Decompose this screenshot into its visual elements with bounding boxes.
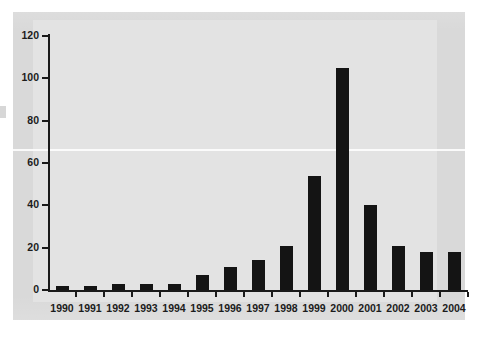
bar bbox=[308, 176, 321, 290]
bar bbox=[392, 246, 405, 290]
bar bbox=[56, 286, 69, 290]
x-axis-tick-mark bbox=[271, 292, 273, 297]
y-axis-tick-mark bbox=[42, 120, 48, 122]
bar bbox=[336, 68, 349, 290]
bar-chart-plot-area: 020406080100120 199019911992199319941995… bbox=[48, 34, 468, 292]
x-axis-tick-label: 1995 bbox=[190, 302, 213, 314]
bar bbox=[168, 284, 181, 290]
y-axis-tick-label: 60 bbox=[27, 156, 39, 168]
x-axis-tick-mark bbox=[467, 292, 469, 297]
x-axis-tick-mark bbox=[327, 292, 329, 297]
bar bbox=[280, 246, 293, 290]
x-axis-tick-label: 1991 bbox=[78, 302, 101, 314]
y-axis-tick-label: 80 bbox=[27, 114, 39, 126]
edge-artifact-mark bbox=[0, 106, 6, 118]
y-axis-tick-label: 40 bbox=[27, 198, 39, 210]
x-axis-tick-mark bbox=[299, 292, 301, 297]
bar bbox=[364, 205, 377, 290]
x-axis-tick-mark bbox=[383, 292, 385, 297]
bar bbox=[252, 260, 265, 290]
x-axis-tick-label: 1994 bbox=[162, 302, 185, 314]
bar bbox=[84, 286, 97, 290]
y-axis-tick-label: 100 bbox=[21, 71, 39, 83]
y-axis-tick-label: 20 bbox=[27, 241, 39, 253]
y-axis-tick-mark bbox=[42, 247, 48, 249]
x-axis-tick-label: 1996 bbox=[218, 302, 241, 314]
x-axis-tick-label: 2004 bbox=[442, 302, 465, 314]
y-axis-tick-mark bbox=[42, 289, 48, 291]
x-axis-tick-mark bbox=[355, 292, 357, 297]
x-axis-tick-label: 2003 bbox=[414, 302, 437, 314]
x-axis-tick-mark bbox=[131, 292, 133, 297]
x-axis-line bbox=[48, 290, 468, 292]
x-axis-tick-mark bbox=[187, 292, 189, 297]
x-axis-tick-mark bbox=[439, 292, 441, 297]
bar bbox=[448, 252, 461, 290]
x-axis-tick-mark bbox=[243, 292, 245, 297]
x-axis-tick-label: 2000 bbox=[330, 302, 353, 314]
y-axis-tick-mark bbox=[42, 77, 48, 79]
chart-figure: 020406080100120 199019911992199319941995… bbox=[0, 0, 491, 341]
x-axis-tick-label: 1992 bbox=[106, 302, 129, 314]
bar bbox=[112, 284, 125, 290]
x-axis-tick-label: 1990 bbox=[50, 302, 73, 314]
x-axis-tick-mark bbox=[159, 292, 161, 297]
y-axis-tick-mark bbox=[42, 204, 48, 206]
x-axis-tick-label: 2001 bbox=[358, 302, 381, 314]
bar bbox=[196, 275, 209, 290]
bar bbox=[140, 284, 153, 290]
y-axis-line bbox=[48, 34, 50, 292]
bar bbox=[420, 252, 433, 290]
y-axis-tick-mark bbox=[42, 35, 48, 37]
y-axis-tick-mark bbox=[42, 162, 48, 164]
y-axis-tick-label: 0 bbox=[33, 283, 39, 295]
x-axis-tick-label: 1998 bbox=[274, 302, 297, 314]
x-axis-tick-mark bbox=[411, 292, 413, 297]
x-axis-tick-mark bbox=[215, 292, 217, 297]
x-axis-tick-label: 2002 bbox=[386, 302, 409, 314]
x-axis-tick-label: 1999 bbox=[302, 302, 325, 314]
x-axis-tick-label: 1997 bbox=[246, 302, 269, 314]
x-axis-tick-label: 1993 bbox=[134, 302, 157, 314]
x-axis-tick-mark bbox=[103, 292, 105, 297]
x-axis-tick-mark bbox=[75, 292, 77, 297]
y-axis-tick-label: 120 bbox=[21, 29, 39, 41]
bar bbox=[224, 267, 237, 290]
